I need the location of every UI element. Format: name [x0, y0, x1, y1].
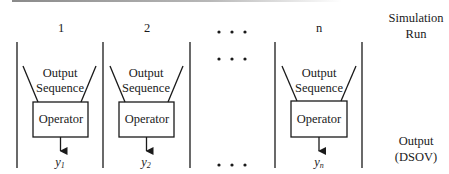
side-label-dsov: (DSOV)	[381, 149, 449, 165]
ellipsis-dots	[217, 30, 246, 166]
side-label-output: Output	[381, 133, 449, 149]
column-1-label: 1	[46, 21, 76, 35]
column-2-output-y2: y2	[134, 155, 158, 173]
column-n-funnel-label-line2: Sequence	[284, 81, 354, 96]
output-subscript: n	[320, 161, 324, 170]
column-2-operator-label: Operator	[119, 112, 175, 126]
column-n-label: n	[304, 21, 334, 35]
column-1-funnel-label-line1: Output	[25, 66, 95, 81]
column-n-output-yn: yn	[307, 155, 331, 173]
column-2-funnel-label-line2: Sequence	[111, 81, 181, 96]
column-2-funnel-label-line1: Output	[111, 66, 181, 81]
column-2-label: 2	[132, 21, 162, 35]
side-label-run: Run	[381, 26, 449, 42]
column-n-operator-label: Operator	[291, 112, 347, 126]
output-subscript: 1	[61, 161, 65, 170]
output-subscript: 2	[147, 161, 151, 170]
side-label-simulation: Simulation	[381, 10, 449, 26]
column-1-funnel-label-line2: Sequence	[25, 81, 95, 96]
column-1-operator-label: Operator	[33, 112, 89, 126]
column-n-funnel-label-line1: Output	[284, 66, 354, 81]
column-1-output-y1: y1	[48, 155, 72, 173]
